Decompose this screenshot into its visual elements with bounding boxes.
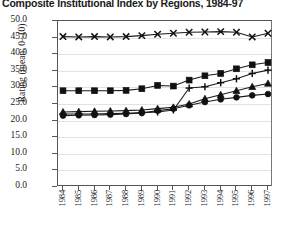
y-tick-label: 0.0: [0, 181, 27, 190]
x-tick-label: 1988: [120, 190, 131, 206]
x-tick-label: 1990: [152, 190, 163, 206]
data-point: [217, 79, 224, 86]
x-tick-label: 1997: [262, 190, 273, 206]
data-point: [218, 96, 224, 102]
series-circle: [60, 91, 271, 118]
data-point: [139, 86, 145, 92]
data-point: [123, 87, 129, 93]
y-tick-label: 15.0: [0, 131, 27, 140]
data-point: [170, 106, 176, 112]
y-tick-label: 50.0: [0, 15, 27, 24]
data-point: [107, 88, 113, 94]
data-point: [92, 112, 98, 118]
data-point: [186, 102, 192, 108]
data-point: [201, 83, 208, 90]
data-point: [265, 80, 272, 86]
data-point: [234, 66, 240, 72]
x-tick-label: 1991: [167, 190, 178, 206]
data-point: [60, 88, 66, 94]
data-point: [249, 92, 255, 98]
data-point: [218, 71, 224, 77]
data-point: [202, 73, 208, 79]
data-point: [76, 88, 82, 94]
y-tick-label: 45.0: [0, 32, 27, 41]
data-point: [186, 84, 193, 91]
x-tick-label: 1996: [246, 190, 257, 206]
y-tick-label: 25.0: [0, 98, 27, 107]
data-point: [60, 113, 66, 119]
plot-area: [57, 20, 272, 186]
data-point: [234, 94, 240, 100]
chart-figure: Composite Institutional Index by Regions…: [0, 0, 303, 230]
y-tick-label: 35.0: [0, 65, 27, 74]
y-tick-label: 10.0: [0, 148, 27, 157]
data-point: [265, 91, 271, 97]
data-point: [123, 111, 129, 117]
y-tick-label: 5.0: [0, 164, 27, 173]
y-tick-label: 30.0: [0, 81, 27, 90]
data-point: [265, 60, 271, 66]
y-tick-label: 20.0: [0, 115, 27, 124]
x-tick-label: 1994: [215, 190, 226, 206]
data-point: [139, 110, 145, 116]
data-point: [249, 70, 256, 77]
data-point: [264, 67, 271, 74]
data-point: [155, 83, 161, 89]
data-point: [186, 77, 192, 83]
chart-title: Composite Institutional Index by Regions…: [2, 0, 301, 9]
x-tick-label: 1984: [57, 190, 68, 206]
x-tick-label: 1992: [183, 190, 194, 206]
x-tick-label: 1993: [199, 190, 210, 206]
data-point: [249, 62, 255, 68]
x-tick-label: 1989: [136, 190, 147, 206]
series-cross: [60, 28, 271, 40]
x-tick-label: 1986: [89, 190, 100, 206]
x-tick-label: 1995: [230, 190, 241, 206]
y-tick-label: 40.0: [0, 48, 27, 57]
x-tick-label: 1987: [104, 190, 115, 206]
data-point: [107, 112, 113, 118]
x-tick-label: 1985: [73, 190, 84, 206]
data-point: [92, 88, 98, 94]
data-point: [233, 75, 240, 82]
data-point: [170, 83, 176, 89]
data-point: [202, 99, 208, 105]
series-square: [60, 60, 271, 94]
data-point: [155, 108, 161, 114]
series-layer: [58, 21, 273, 187]
y-tick-mark: [52, 186, 57, 187]
data-point: [76, 112, 82, 118]
